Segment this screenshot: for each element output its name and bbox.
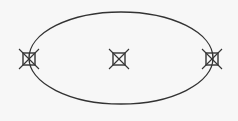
diagram-canvas xyxy=(0,0,238,121)
crossed-square-node-icon xyxy=(19,49,39,69)
ellipse-loop xyxy=(29,12,213,104)
nodes-group xyxy=(19,49,222,69)
crossed-square-node-icon xyxy=(109,49,129,69)
diagram-svg xyxy=(0,0,238,121)
